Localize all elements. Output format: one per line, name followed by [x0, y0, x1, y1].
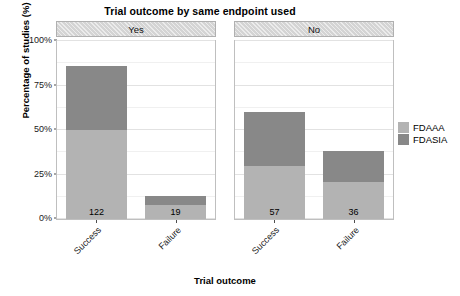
x-tick-label: Success	[243, 225, 281, 263]
gridline	[235, 85, 393, 86]
y-tick-label: 25%	[12, 169, 52, 179]
bar-segment-fdasia	[323, 151, 383, 181]
y-tick-label: 75%	[12, 80, 52, 90]
x-tick-label: Success	[65, 225, 103, 263]
gridline-minor	[235, 62, 393, 63]
legend-label: FDAAA	[413, 122, 445, 133]
bar-no-success[interactable]: 57	[244, 112, 304, 219]
facet-panel-yes: Yes12219	[56, 21, 216, 220]
facet-strip-no: No	[234, 21, 394, 37]
bar-segment-fdaaa	[66, 130, 126, 219]
chart-figure: Trial outcome by same endpoint used Perc…	[0, 0, 460, 296]
facet-panel-no: No5736	[234, 21, 394, 220]
bar-yes-failure[interactable]: 19	[145, 196, 205, 219]
facet-strip-yes: Yes	[56, 21, 216, 37]
bar-segment-fdasia	[145, 196, 205, 205]
bar-yes-success[interactable]: 122	[66, 66, 126, 219]
bar-count-label: 57	[244, 207, 304, 217]
panel-gap	[216, 21, 234, 220]
y-tick-label: 50%	[12, 124, 52, 134]
legend-swatch-icon	[398, 134, 409, 145]
x-axis-title: Trial outcome	[55, 275, 395, 286]
x-tick-mark	[354, 220, 355, 223]
facet-strip-label: No	[308, 24, 320, 35]
y-axis-ticks: 100%75%50%25%0%	[8, 0, 52, 296]
bar-count-label: 36	[323, 207, 383, 217]
bar-segment-fdasia	[244, 112, 304, 165]
x-tick-label: Failure	[145, 225, 183, 263]
plot-area: 12219	[56, 40, 216, 220]
gridline-minor	[235, 107, 393, 108]
legend-item-fdaaa[interactable]: FDAAA	[398, 122, 447, 133]
bar-count-label: 19	[145, 207, 205, 217]
gridline-minor	[57, 62, 215, 63]
bar-count-label: 122	[66, 207, 126, 217]
x-tick-mark	[274, 220, 275, 223]
y-tick-label: 0%	[12, 213, 52, 223]
legend-item-fdasia[interactable]: FDASIA	[398, 134, 447, 145]
bar-segment-fdasia	[66, 66, 126, 130]
x-tick-mark	[176, 220, 177, 223]
x-tick-mark	[96, 220, 97, 223]
gridline	[57, 40, 215, 41]
gridline	[235, 40, 393, 41]
x-tick-label: Failure	[323, 225, 361, 263]
bar-no-failure[interactable]: 36	[323, 151, 383, 219]
chart-title: Trial outcome by same endpoint used	[0, 5, 400, 17]
plot-area: 5736	[234, 40, 394, 220]
legend: FDAAA FDASIA	[398, 122, 447, 145]
facet-strip-label: Yes	[128, 24, 144, 35]
y-tick-label: 100%	[12, 35, 52, 45]
legend-label: FDASIA	[413, 134, 447, 145]
plot-panels: Yes12219No5736	[56, 21, 394, 220]
legend-swatch-icon	[398, 122, 409, 133]
